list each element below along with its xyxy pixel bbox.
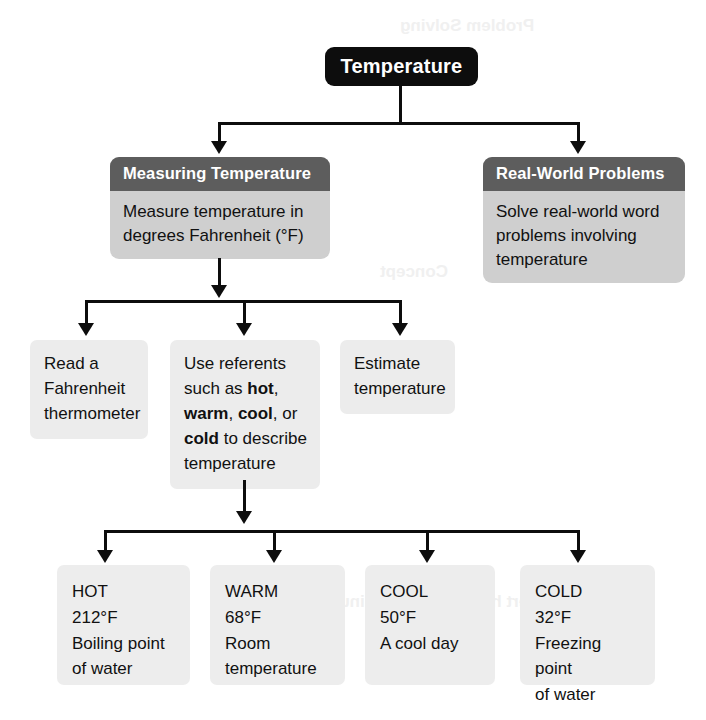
node-use-referents[interactable]: Use referents such as hot, warm, cool, o…: [170, 340, 320, 489]
node-cold-desc-line1: Freezing point: [535, 631, 642, 683]
arrow-down-icon-realworld: [570, 141, 586, 154]
node-warm-desc-line1: Room: [225, 631, 332, 657]
node-measuring-temperature-body: Measure temperature in degrees Fahrenhei…: [110, 191, 330, 259]
node-use-referents-label: Use referents such as hot, warm, cool, o…: [184, 354, 307, 473]
arrow-down-icon-level3-stem: [211, 285, 227, 298]
node-real-world-problems[interactable]: Real-World Problems Solve real-world wor…: [483, 157, 685, 283]
node-real-world-problems-header: Real-World Problems: [483, 157, 685, 191]
node-cold[interactable]: COLD 32°F Freezing point of water: [520, 565, 655, 685]
node-hot-desc-line2: of water: [72, 656, 177, 682]
arrow-down-icon-read-thermometer: [78, 323, 94, 336]
connector-level4-drop-cold: [577, 530, 580, 552]
arrow-down-icon-warm: [266, 550, 282, 563]
connector-measuring-stem: [218, 258, 221, 287]
connector-level2-left-drop: [218, 122, 221, 143]
connector-root-stem: [399, 86, 402, 122]
connector-level4-drop-hot: [104, 530, 107, 552]
node-cold-label: COLD: [535, 579, 642, 605]
arrow-down-icon-estimate: [392, 323, 408, 336]
node-read-thermometer[interactable]: Read a Fahrenheit thermometer: [30, 340, 148, 439]
arrow-down-icon-cool: [419, 550, 435, 563]
realworld-body-line2: problems involving: [496, 224, 672, 248]
node-hot[interactable]: HOT 212°F Boiling point of water: [57, 565, 190, 685]
node-cold-desc-line2: of water: [535, 682, 642, 708]
arrow-down-icon-level4-stem: [236, 511, 252, 524]
node-warm[interactable]: WARM 68°F Room temperature: [210, 565, 345, 685]
connector-level4-bar: [104, 530, 580, 533]
node-measuring-temperature[interactable]: Measuring Temperature Measure temperatur…: [110, 157, 330, 259]
measuring-body-line1: Measure temperature in: [123, 200, 317, 224]
ghost-text-b: Concept: [380, 262, 448, 282]
node-hot-value: 212°F: [72, 605, 177, 631]
realworld-body-line3: temperature: [496, 248, 672, 272]
connector-referents-stem: [243, 480, 246, 513]
node-temperature-root[interactable]: Temperature: [325, 47, 478, 86]
node-estimate-temperature[interactable]: Estimate temperature: [340, 340, 455, 414]
node-temperature-root-label: Temperature: [341, 55, 463, 78]
connector-level2-bar: [218, 122, 580, 125]
node-cold-value: 32°F: [535, 605, 642, 631]
node-warm-desc-line2: temperature: [225, 656, 332, 682]
connector-level4-drop-warm: [273, 530, 276, 552]
connector-level4-drop-cool: [426, 530, 429, 552]
node-cool-label: COOL: [380, 579, 482, 605]
connector-level3-drop-3: [399, 300, 402, 325]
node-hot-label: HOT: [72, 579, 177, 605]
connector-level3-drop-1: [85, 300, 88, 325]
ghost-text-a: Problem Solving: [400, 16, 534, 36]
arrow-down-icon-hot: [97, 550, 113, 563]
connector-level2-right-drop: [577, 122, 580, 143]
arrow-down-icon-use-referents: [236, 323, 252, 336]
measuring-body-line2: degrees Fahrenheit (°F): [123, 224, 317, 248]
arrow-down-icon-cold: [570, 550, 586, 563]
diagram-canvas: Problem Solving Concept minutes to minut…: [0, 0, 706, 720]
arrow-down-icon-measuring: [211, 141, 227, 154]
connector-level3-drop-2: [243, 300, 246, 325]
node-cool[interactable]: COOL 50°F A cool day: [365, 565, 495, 685]
node-warm-label: WARM: [225, 579, 332, 605]
node-measuring-temperature-header: Measuring Temperature: [110, 157, 330, 191]
node-real-world-problems-body: Solve real-world word problems involving…: [483, 191, 685, 283]
node-hot-desc-line1: Boiling point: [72, 631, 177, 657]
node-cool-value: 50°F: [380, 605, 482, 631]
node-cool-desc-line1: A cool day: [380, 631, 482, 657]
realworld-body-line1: Solve real-world word: [496, 200, 672, 224]
node-read-thermometer-label: Read a Fahrenheit thermometer: [44, 354, 140, 423]
node-estimate-temperature-label: Estimate temperature: [354, 354, 446, 398]
node-warm-value: 68°F: [225, 605, 332, 631]
